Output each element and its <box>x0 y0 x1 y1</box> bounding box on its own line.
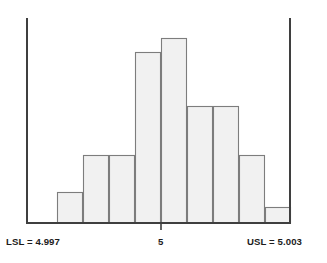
histogram-bar <box>266 208 291 224</box>
histogram-bar <box>240 156 265 224</box>
histogram-bar <box>58 193 83 224</box>
histogram-bar <box>84 156 109 224</box>
histogram-bar <box>188 107 213 224</box>
histogram-bar <box>136 53 161 224</box>
process-capability-histogram: LSL = 4.997 5 USL = 5.003 <box>0 0 327 263</box>
histogram-bar <box>214 107 239 224</box>
center-tick-label: 5 <box>158 236 164 247</box>
histogram-bars <box>58 39 291 224</box>
histogram-bar <box>110 156 135 224</box>
usl-label: USL = 5.003 <box>247 236 302 247</box>
lsl-label: LSL = 4.997 <box>6 236 60 247</box>
chart-canvas: LSL = 4.997 5 USL = 5.003 <box>0 0 327 263</box>
histogram-bar <box>162 39 187 224</box>
